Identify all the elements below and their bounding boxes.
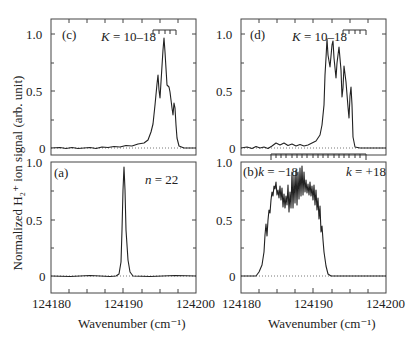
annotation-a-val: = 22 bbox=[152, 172, 179, 187]
xtick-left-124180: 124180 bbox=[32, 297, 71, 310]
ytick-b-1: 1.0 bbox=[216, 156, 232, 169]
ytick-b-0: 0 bbox=[229, 270, 236, 283]
annotation-d: K = 10–18 bbox=[292, 30, 347, 43]
annotation-b-left: (b)k = −18 bbox=[243, 165, 298, 178]
ytick-c-1: 1.0 bbox=[26, 28, 42, 41]
annotation-a: n = 22 bbox=[145, 173, 178, 186]
xtick-left-124190: 124190 bbox=[104, 297, 143, 310]
panel-tag-c: (c) bbox=[62, 28, 76, 41]
trace-c bbox=[51, 38, 196, 149]
annotation-c-var: K bbox=[101, 29, 110, 44]
x-axis-label-left: Wavenumber (cm⁻¹) bbox=[78, 316, 186, 332]
ytick-a-05: 0.5 bbox=[26, 214, 42, 227]
panel-tag-a: (a) bbox=[54, 166, 68, 179]
annotation-c: K = 10–18 bbox=[101, 30, 156, 43]
ytick-d-05: 0.5 bbox=[216, 85, 232, 98]
xtick-right-124190: 124190 bbox=[294, 297, 333, 310]
ytick-b-05: 0.5 bbox=[216, 214, 232, 227]
panel-tag-d: (d) bbox=[250, 28, 265, 41]
annotation-b-right-val: = +18 bbox=[352, 164, 386, 179]
ytick-d-0: 0 bbox=[229, 142, 236, 155]
annotation-d-var: K bbox=[292, 29, 301, 44]
ytick-a-1: 1.0 bbox=[26, 156, 42, 169]
xtick-right-124200: 124200 bbox=[366, 297, 405, 310]
comb-c bbox=[153, 30, 176, 35]
annotation-d-val: = 10–18 bbox=[301, 29, 347, 44]
annotation-c-val: = 10–18 bbox=[110, 29, 156, 44]
ytick-a-0: 0 bbox=[39, 270, 46, 283]
annotation-b-left-val: = −18 bbox=[264, 164, 298, 179]
panel-tag-b: (b) bbox=[243, 164, 258, 179]
y-axis-label: Normalized H₂⁺ ion signal (arb. unit) bbox=[10, 63, 26, 283]
annotation-b-right: k = +18 bbox=[346, 165, 386, 178]
ytick-d-1: 1.0 bbox=[216, 28, 232, 41]
trace-d bbox=[241, 39, 386, 149]
ytick-c-05: 0.5 bbox=[26, 85, 42, 98]
panel-b-frame bbox=[241, 162, 386, 293]
xtick-left-124200: 124200 bbox=[176, 297, 215, 310]
trace-b bbox=[241, 166, 386, 276]
x-axis-label-right: Wavenumber (cm⁻¹) bbox=[268, 316, 376, 332]
xtick-right-124180: 124180 bbox=[222, 297, 261, 310]
ytick-c-0: 0 bbox=[39, 142, 46, 155]
